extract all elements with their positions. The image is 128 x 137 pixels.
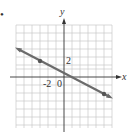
y-tick-2: 2 — [66, 56, 71, 66]
point-neg3-2 — [38, 59, 42, 63]
x-axis-label: x — [122, 72, 126, 82]
origin-label: 0 — [57, 79, 62, 89]
point-5-neg2 — [102, 92, 106, 96]
x-tick-neg2: -2 — [43, 79, 51, 89]
y-axis-arrow-icon — [62, 18, 66, 24]
y-axis-label: y — [60, 7, 64, 17]
coordinate-plane — [0, 0, 128, 137]
